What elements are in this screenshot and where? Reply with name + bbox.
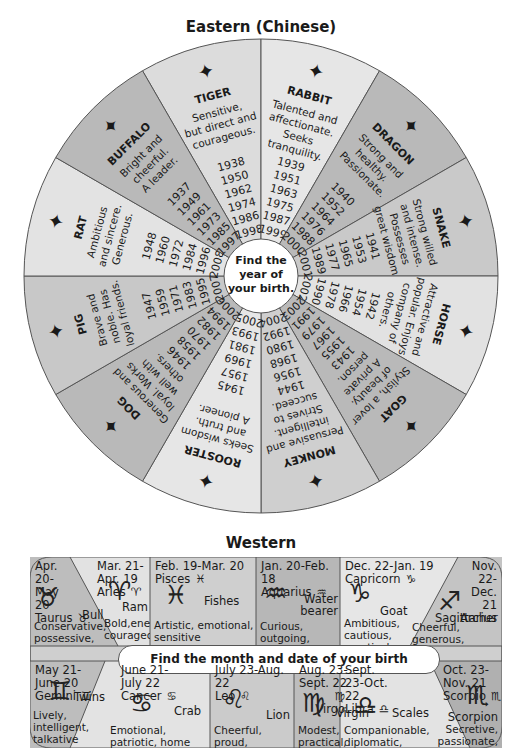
virgin-icon: ♍ [302, 697, 325, 709]
western-zodiac-grid: Apr. 20-May 20 Taurus♉ ♉ Bull Conservati… [30, 557, 502, 748]
bull-icon: ♉ [36, 591, 59, 603]
twins-icon: ♊ [48, 685, 71, 697]
water-bearer-icon: ♒ [264, 587, 287, 599]
lion-icon: ♌ [222, 693, 245, 705]
western-sign-aquarius: Jan. 20-Feb. 18 Aquarius♒ ♒ Water bearer… [256, 557, 340, 646]
western-sign-sagittarius: Nov. 22-Dec. 21 Sagittarius ♐ Archer Che… [410, 557, 502, 646]
center-prompt-line: year of [239, 268, 283, 281]
zodiac-wheel-svg: ✦TIGERSensitive,but direct andcourageous… [0, 0, 522, 530]
crab-icon: ♋ [130, 697, 153, 709]
western-sign-aries: Mar. 21-Apr. 19 Aries♈ ♈ Ram Bold,energe… [70, 557, 150, 646]
western-sign-scorpio: Oct. 23-Nov. 21 Scorpio♏ ♏ Scorpion Secr… [430, 661, 502, 748]
western-title: Western [0, 534, 522, 552]
fishes-icon: ♓ [164, 589, 187, 601]
goat-icon: ♑ [348, 587, 371, 599]
ram-icon: ♈ [108, 585, 131, 597]
archer-icon: ♐ [438, 595, 461, 607]
center-prompt-line: Find the [235, 254, 286, 267]
western-sign-cancer: June 21-July 22 Cancer♋ ♋ Crab Emotional… [90, 661, 210, 748]
chinese-zodiac-wheel: ✦TIGERSensitive,but direct andcourageous… [0, 0, 522, 530]
scales-icon: ♎ [354, 699, 377, 711]
western-sign-leo: July 23-Aug. 22 Leo♌ ♌ Lion Cheerful, pr… [210, 661, 294, 748]
scorpion-icon: ♏ [466, 689, 489, 701]
center-prompt-line: your birth. [228, 282, 294, 295]
western-sign-pisces: Feb. 19-Mar. 20 Pisces♓ ♓ Fishes Artisti… [150, 557, 256, 646]
